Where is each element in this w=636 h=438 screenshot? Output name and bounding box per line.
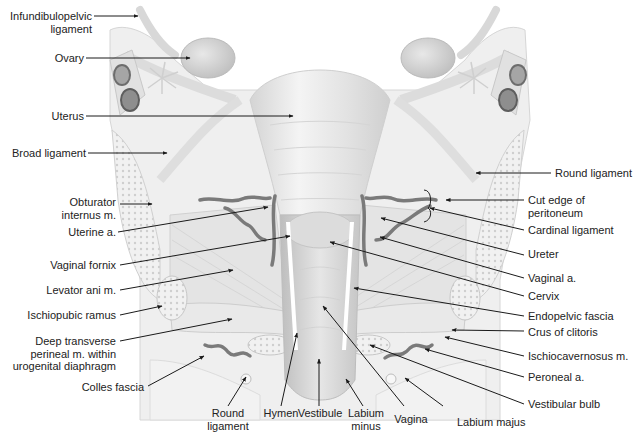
label-labium-minus: Labium minus xyxy=(344,407,388,432)
label-broad-ligament: Broad ligament xyxy=(0,147,86,160)
label-levator-ani: Levator ani m. xyxy=(10,284,116,297)
label-ischiopubic-ramus: Ischiopubic ramus xyxy=(0,309,116,322)
label-line: ligament xyxy=(10,23,92,36)
label-colles-fascia: Colles fascia xyxy=(10,381,144,394)
label-line: Cut edge of xyxy=(528,194,628,207)
label-cut-edge-peritoneum: Cut edge of peritoneum xyxy=(528,194,628,219)
label-line: Labium xyxy=(344,407,388,420)
label-obturator-internus: Obturator internus m. xyxy=(10,196,116,221)
label-vestibular-bulb: Vestibular bulb xyxy=(528,398,634,411)
label-cervix: Cervix xyxy=(528,290,628,303)
label-infundibulopelvic-ligament: Infundibulopelvic ligament xyxy=(10,10,92,35)
label-uterus: Uterus xyxy=(10,110,84,123)
label-line: ligament xyxy=(200,420,256,433)
label-ovary: Ovary xyxy=(10,52,84,65)
label-round-ligament-right: Round ligament xyxy=(555,167,635,180)
label-vaginal-artery: Vaginal a. xyxy=(528,272,628,285)
label-endopelvic-fascia: Endopelvic fascia xyxy=(528,310,634,323)
label-crus-of-clitoris: Crus of clitoris xyxy=(528,326,634,339)
label-line: Infundibulopelvic xyxy=(10,10,92,23)
label-ischiocavernosus: Ischiocavernosus m. xyxy=(528,350,636,363)
label-cardinal-ligament: Cardinal ligament xyxy=(528,224,634,237)
label-line: Round xyxy=(200,407,256,420)
label-line: Obturator xyxy=(10,196,116,209)
label-labium-majus: Labium majus xyxy=(457,416,547,429)
label-line: minus xyxy=(344,420,388,433)
label-line: internus m. xyxy=(10,209,116,222)
label-vestibule: Vestibule xyxy=(292,407,348,420)
vagina xyxy=(280,212,360,400)
label-line: peritoneum xyxy=(528,207,628,220)
label-line: urogenital diaphragm xyxy=(0,360,116,373)
label-uterine-artery: Uterine a. xyxy=(10,226,116,239)
label-vagina: Vagina xyxy=(388,413,434,426)
label-deep-transverse-perineal: Deep transverse perineal m. within uroge… xyxy=(0,335,116,373)
label-round-ligament-bottom: Round ligament xyxy=(200,407,256,432)
label-ureter: Ureter xyxy=(528,248,628,261)
label-line: Deep transverse xyxy=(0,335,116,348)
label-vaginal-fornix: Vaginal fornix xyxy=(10,259,116,272)
label-peroneal-artery: Peroneal a. xyxy=(528,371,634,384)
label-line: perineal m. within xyxy=(0,348,116,361)
